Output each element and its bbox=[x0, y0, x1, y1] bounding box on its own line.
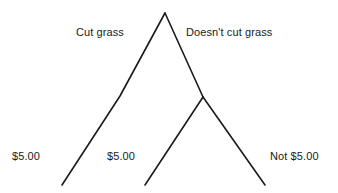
decision-tree-diagram: Cut grass Doesn't cut grass $5.00 $5.00 … bbox=[0, 0, 338, 193]
payoff-label-middle: $5.00 bbox=[107, 150, 135, 163]
branch-junction-to-right-outcome bbox=[203, 97, 265, 185]
branch-label-cut-grass: Cut grass bbox=[76, 26, 124, 39]
tree-branches-svg bbox=[0, 0, 338, 193]
payoff-label-right: Not $5.00 bbox=[270, 150, 319, 163]
branch-junction-to-middle-outcome bbox=[145, 97, 203, 185]
payoff-label-left: $5.00 bbox=[12, 150, 40, 163]
branch-label-doesnt-cut-grass: Doesn't cut grass bbox=[186, 26, 272, 39]
